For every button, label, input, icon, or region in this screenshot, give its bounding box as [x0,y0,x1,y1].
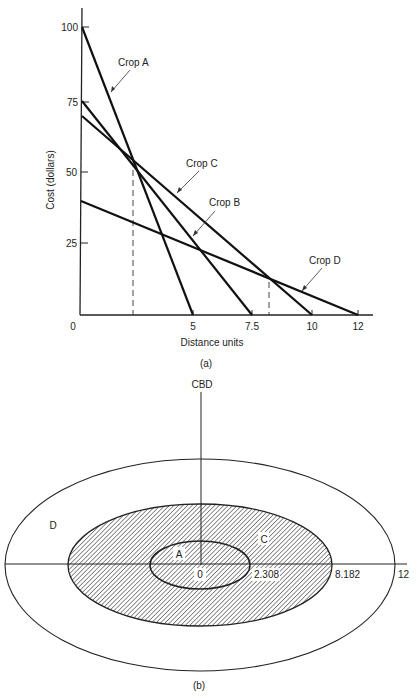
zone-a-ring [150,541,250,589]
radius-label-8-182: 8.182 [335,569,360,580]
crop-d-label: Crop D [309,255,341,266]
y-tick-label-50: 50 [66,167,78,178]
y-tick-label-75: 75 [67,97,79,108]
x-axis-title: Distance units [181,337,244,348]
y-axis [80,8,82,315]
crop-b-line [82,101,252,315]
crop-a-label: Crop A [118,57,149,68]
x-ticks: 0 5 7.5 10 12 [70,310,364,332]
figure: 100 75 50 25 0 5 7.5 10 12 Crop A [0,0,418,700]
crop-b-label: Crop B [209,197,240,208]
zone-a-label: A [176,549,183,560]
cbd-label: CBD [191,379,212,390]
panel-b-rings: CBD D A C 0 2.308 8.182 12 (b) [5,379,410,691]
panel-a-caption: (a) [200,358,212,369]
y-tick-label-25: 25 [66,238,78,249]
y-tick-label-100: 100 [61,22,78,33]
y-axis-title: Cost (dollars) [45,150,56,209]
crop-c-label: Crop C [186,158,218,169]
x-tick-label-10: 10 [306,321,318,332]
crop-c-annotation: Crop C [177,158,218,193]
crop-a-annotation: Crop A [111,57,149,92]
x-tick-label-7-5: 7.5 [245,321,259,332]
panel-b-caption: (b) [193,680,205,691]
x-tick-label-5: 5 [190,321,196,332]
zone-d-label: D [49,520,56,531]
radius-label-2-308: 2.308 [254,569,279,580]
y-ticks: 100 75 50 25 [61,22,89,249]
zone-c-label: C [260,534,267,545]
x-tick-label-0: 0 [70,321,76,332]
radius-label-12: 12 [398,569,410,580]
crop-d-annotation: Crop D [302,255,341,291]
x-tick-label-12: 12 [352,321,364,332]
crop-b-annotation: Crop B [193,197,240,236]
panel-a-chart: 100 75 50 25 0 5 7.5 10 12 Crop A [45,8,373,369]
origin-label: 0 [197,569,203,580]
